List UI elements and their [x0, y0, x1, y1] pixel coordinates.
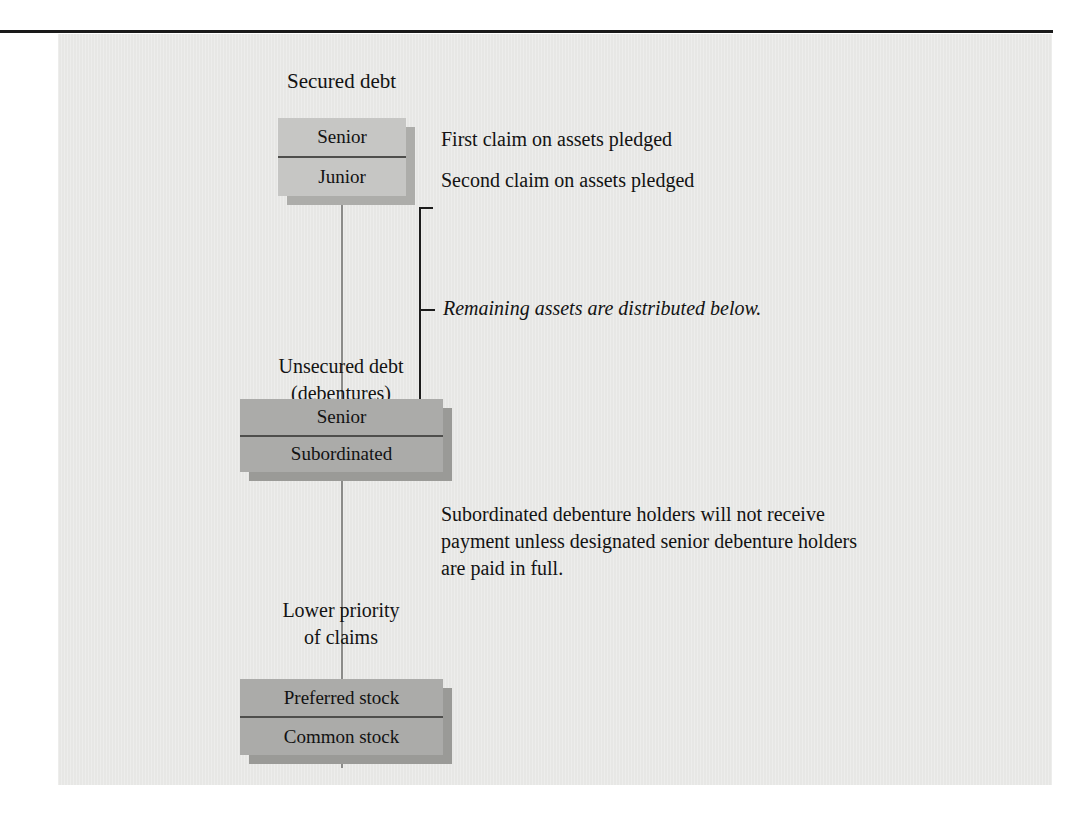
secured-debt-label: Secured debt [287, 68, 396, 94]
secured-senior-label: Senior [317, 126, 367, 148]
page-top-rule [0, 30, 1053, 33]
secured-debt-box-group: Senior Junior [278, 118, 406, 196]
unsecured-senior-cell[interactable]: Senior [240, 399, 443, 435]
lower-priority-label-line2: of claims [220, 625, 462, 650]
remaining-assets-note: Remaining assets are distributed below. [443, 296, 761, 321]
common-stock-label: Common stock [284, 726, 400, 748]
secured-senior-cell[interactable]: Senior [278, 118, 406, 156]
subordination-note: Subordinated debenture holders will not … [441, 501, 871, 581]
common-stock-cell[interactable]: Common stock [240, 716, 443, 755]
unsecured-subordinated-label: Subordinated [291, 443, 392, 465]
bracket-arm-top [419, 207, 433, 209]
unsecured-debt-label-line1: Unsecured debt [220, 354, 462, 379]
secured-junior-label: Junior [318, 166, 366, 188]
unsecured-subordinated-cell[interactable]: Subordinated [240, 435, 443, 473]
second-claim-annotation: Second claim on assets pledged [441, 168, 694, 193]
unsecured-senior-label: Senior [317, 406, 367, 428]
first-claim-annotation: First claim on assets pledged [441, 127, 672, 152]
equity-box-group: Preferred stock Common stock [240, 679, 443, 755]
preferred-stock-label: Preferred stock [284, 687, 400, 709]
figure-panel: Secured debt Senior Junior First claim o… [58, 34, 1052, 785]
bracket-arm-middle [419, 309, 435, 311]
lower-priority-label-line1: Lower priority [220, 598, 462, 623]
unsecured-debt-box-group: Senior Subordinated [240, 399, 443, 472]
preferred-stock-cell[interactable]: Preferred stock [240, 679, 443, 716]
secured-junior-cell[interactable]: Junior [278, 156, 406, 196]
